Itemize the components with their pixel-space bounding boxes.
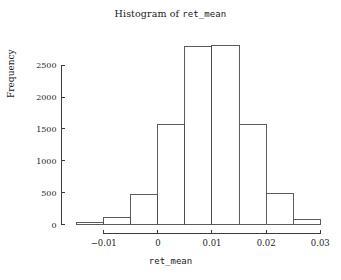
x-axis-group	[104, 230, 321, 234]
histogram-bar	[131, 195, 158, 225]
histogram-bar	[158, 124, 185, 224]
y-tick-label: 500	[41, 189, 56, 198]
y-tick-label: 1500	[36, 125, 56, 134]
histogram-bar	[77, 223, 104, 225]
histogram-bar	[266, 193, 293, 224]
y-tick-label: 0	[51, 221, 56, 230]
x-tick-label: 0.03	[311, 238, 330, 248]
x-tick-label: 0.02	[257, 238, 276, 248]
y-tick-labels-group: 05001000150020002500	[36, 61, 56, 229]
histogram-bar	[185, 46, 212, 224]
x-tick-label: 0.01	[203, 238, 222, 248]
y-tick-label: 2000	[36, 93, 56, 102]
plot-canvas: −0.0100.010.020.03 05001000150020002500	[0, 0, 341, 280]
histogram-bar	[104, 217, 131, 224]
histogram-bar	[293, 219, 320, 224]
x-tick-label: −0.01	[91, 238, 117, 248]
y-tick-label: 1000	[36, 157, 56, 166]
bars-group	[77, 45, 321, 224]
y-axis-group	[62, 65, 66, 224]
histogram-bar	[212, 45, 239, 224]
x-tick-label: 0	[155, 238, 160, 248]
y-tick-label: 2500	[36, 61, 56, 70]
histogram-bar	[239, 124, 266, 224]
x-tick-labels-group: −0.0100.010.020.03	[91, 238, 330, 248]
histogram-plot: Histogram of ret_mean Frequency ret_mean…	[0, 0, 341, 280]
